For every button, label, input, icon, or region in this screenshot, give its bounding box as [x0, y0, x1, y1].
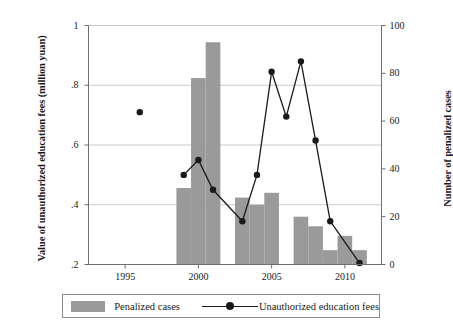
bar	[235, 198, 250, 265]
y-axis-left-tick-label: .4	[53, 200, 79, 210]
line-marker	[283, 113, 289, 119]
y-axis-left-tick-label: .2	[53, 260, 79, 270]
chart-legend: Penalized cases Unauthorized education f…	[62, 294, 380, 318]
y-axis-left-tick-label: 1	[53, 21, 79, 31]
y-axis-right-tick-label: 80	[390, 68, 420, 78]
line-marker	[195, 157, 201, 163]
line-marker	[181, 172, 187, 178]
line-marker	[239, 218, 245, 224]
line-marker	[210, 187, 216, 193]
x-axis-tick-label: 2000	[178, 272, 218, 282]
x-axis-tick-label: 2010	[325, 272, 365, 282]
legend-bar-label: Penalized cases	[114, 301, 180, 312]
bar	[294, 217, 309, 265]
x-axis-tick-label: 2005	[252, 272, 292, 282]
bar	[206, 42, 221, 264]
y-axis-right-tick-label: 100	[390, 21, 420, 31]
line-marker	[312, 137, 318, 143]
bar-swatch-icon	[71, 301, 105, 312]
y-axis-right-tick-label: 40	[390, 164, 420, 174]
line-marker	[298, 58, 304, 64]
line-marker-icon	[202, 301, 250, 312]
line-marker	[356, 260, 362, 266]
line-marker	[327, 218, 333, 224]
y-axis-right-title: Number of penalized cases	[442, 24, 453, 274]
y-axis-left-tick-label: .6	[53, 140, 79, 150]
y-axis-right-tick-label: 0	[390, 260, 420, 270]
y-axis-left-tick-label: .8	[53, 80, 79, 90]
line-marker	[137, 109, 143, 115]
x-axis-tick-label: 1995	[105, 272, 145, 282]
y-axis-right-tick-label: 60	[390, 116, 420, 126]
bar	[264, 193, 279, 265]
bar	[176, 188, 191, 264]
legend-line-label: Unauthorized education fees	[259, 301, 379, 312]
line-marker	[254, 172, 260, 178]
bar	[308, 226, 323, 264]
bar	[250, 205, 265, 265]
legend-line-dot	[226, 302, 234, 310]
y-axis-right-tick-label: 20	[390, 212, 420, 222]
bar	[323, 250, 338, 264]
line-marker	[268, 69, 274, 75]
